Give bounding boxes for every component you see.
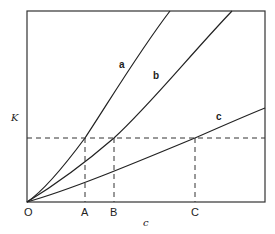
origin-label: O (24, 206, 33, 218)
marker-label-b: B (110, 206, 117, 218)
marker-label-a: A (81, 206, 89, 218)
curve-label-a: a (119, 59, 125, 70)
y-axis-label: K (10, 112, 19, 123)
x-axis-label: c (143, 217, 149, 228)
curve-label-c: c (216, 111, 222, 122)
plot-frame (27, 11, 265, 202)
curve-c (27, 108, 265, 202)
diagram: a b c K c O A B C (0, 0, 275, 234)
curve-label-b: b (153, 70, 159, 81)
curve-a (27, 11, 170, 202)
marker-label-c: C (191, 206, 199, 218)
